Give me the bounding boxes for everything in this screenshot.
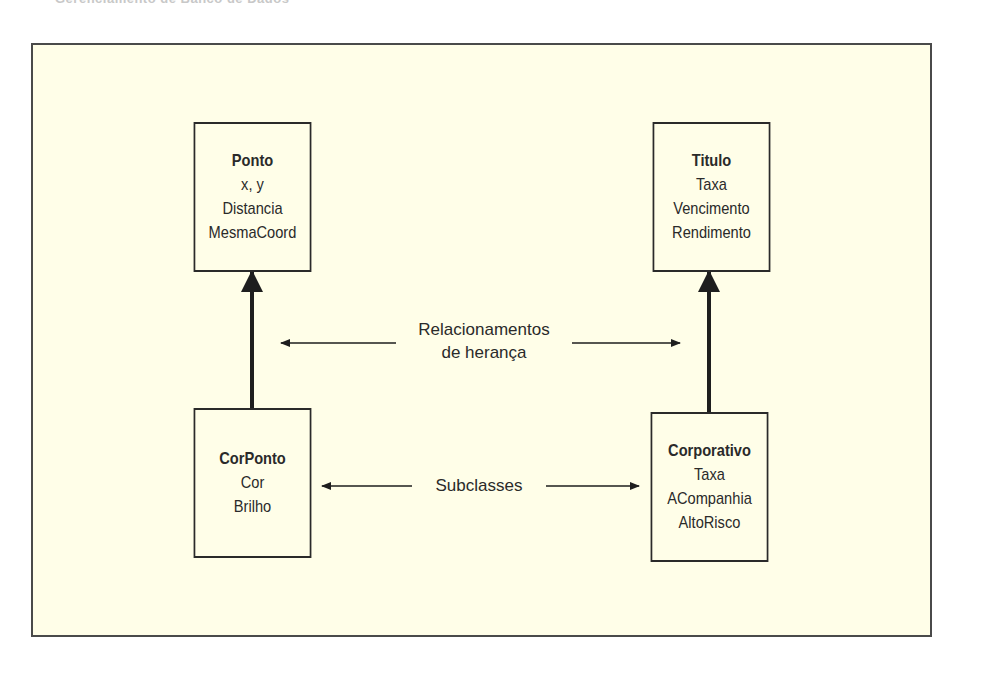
class-attr: Brilho bbox=[234, 495, 271, 519]
class-box-corporativo: Corporativo Taxa ACompanhia AltoRisco bbox=[651, 412, 769, 562]
class-name: CorPonto bbox=[219, 447, 286, 471]
class-box-titulo: Titulo Taxa Vencimento Rendimento bbox=[653, 122, 771, 272]
class-name: Titulo bbox=[692, 149, 732, 173]
class-attr: MesmaCoord bbox=[209, 221, 297, 245]
subclasses-label: Subclasses bbox=[412, 474, 546, 497]
class-attr: Taxa bbox=[694, 463, 725, 487]
class-box-ponto: Ponto x, y Distancia MesmaCoord bbox=[194, 122, 312, 272]
class-box-corponto: CorPonto Cor Brilho bbox=[194, 408, 312, 558]
inheritance-label-line1: Relacionamentos bbox=[402, 318, 566, 341]
class-attr: ACompanhia bbox=[667, 487, 752, 511]
class-attr: Rendimento bbox=[672, 221, 751, 245]
class-attr: AltoRisco bbox=[679, 511, 741, 535]
class-attr: x, y bbox=[241, 173, 264, 197]
class-attr: Cor bbox=[241, 471, 265, 495]
class-attr: Distancia bbox=[222, 197, 282, 221]
class-name: Ponto bbox=[232, 149, 273, 173]
class-attr: Taxa bbox=[696, 173, 727, 197]
class-name: Corporativo bbox=[668, 439, 751, 463]
inheritance-label: Relacionamentos de herança bbox=[396, 318, 572, 364]
inheritance-label-line2: de herança bbox=[402, 341, 566, 364]
class-attr: Vencimento bbox=[673, 197, 749, 221]
